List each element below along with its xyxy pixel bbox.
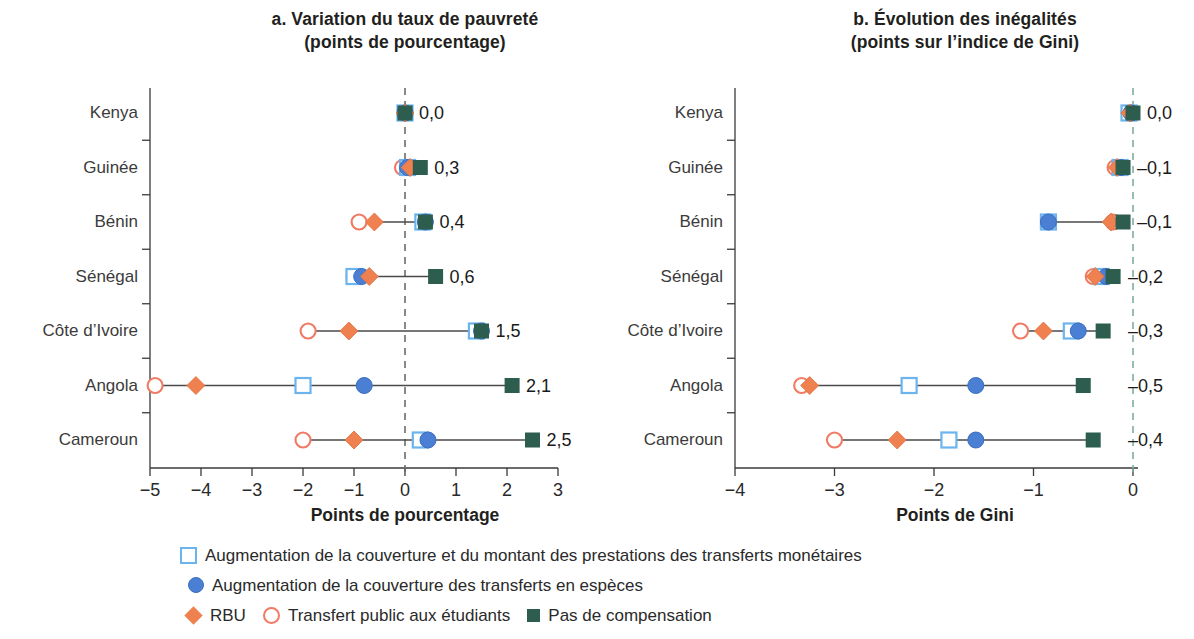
category-label: Sénégal <box>661 267 723 287</box>
marker-green-square <box>1106 269 1121 284</box>
marker-blue-circle <box>968 432 984 448</box>
legend-item-label: RBU <box>210 607 246 624</box>
row-markers <box>1108 159 1131 177</box>
category-label: Angola <box>670 376 723 396</box>
row-value-label: 0,6 <box>450 266 475 287</box>
marker-green-square <box>1116 215 1131 230</box>
marker-green-square <box>525 433 540 448</box>
marker-green-square <box>1076 378 1091 393</box>
marker-green-square <box>418 215 433 230</box>
marker-green-square <box>474 324 489 339</box>
marker-open-circle <box>296 433 311 448</box>
x-tick-label: −3 <box>242 480 263 501</box>
marker-open-square <box>902 378 917 393</box>
legend: Augmentation de la couverture et du mont… <box>0 540 1194 630</box>
x-tick-label: −2 <box>924 480 945 501</box>
marker-orange-diamond <box>1034 322 1052 340</box>
x-tick-label: 0 <box>1128 480 1138 501</box>
row-markers <box>396 104 414 122</box>
row-value-label: –0,5 <box>1128 375 1163 396</box>
legend-item-label: Pas de compensation <box>548 607 712 624</box>
marker-open-circle <box>148 378 163 393</box>
category-label: Kenya <box>90 103 138 123</box>
legend-item[interactable]: RBU <box>186 607 246 624</box>
marker-green-square <box>1086 433 1101 448</box>
row-value-label: –0,1 <box>1137 212 1172 233</box>
marker-orange-diamond <box>888 431 906 449</box>
legend-item[interactable]: Pas de compensation <box>527 607 712 624</box>
row-value-label: –0,2 <box>1128 266 1163 287</box>
row-value-label: 0,3 <box>434 157 459 178</box>
x-tick-label: −5 <box>140 480 161 501</box>
row-value-label: 0,4 <box>439 212 464 233</box>
marker-open-square <box>941 433 956 448</box>
x-tick-label: −1 <box>1023 480 1044 501</box>
marker-open-circle <box>1013 324 1028 339</box>
marker-green-square <box>1096 324 1111 339</box>
legend-item[interactable]: Augmentation de la couverture des transf… <box>188 577 643 594</box>
marker-blue-circle <box>356 378 372 394</box>
legend-orange-diamond-icon <box>184 606 202 624</box>
marker-green-square <box>1116 160 1131 175</box>
x-tick-label: −4 <box>191 480 212 501</box>
marker-orange-diamond <box>187 377 205 395</box>
panel-a-x-axis-label: Points de pourcentage <box>200 505 610 526</box>
marker-open-square <box>296 378 311 393</box>
category-label: Cameroun <box>644 430 723 450</box>
row-value-label: –0,3 <box>1128 321 1163 342</box>
row-value-label: 0,0 <box>1147 103 1172 124</box>
marker-open-circle <box>301 324 316 339</box>
marker-open-circle <box>827 433 842 448</box>
x-tick-label: 3 <box>553 480 563 501</box>
category-label: Bénin <box>95 212 138 232</box>
x-tick-label: −4 <box>725 480 746 501</box>
legend-row: RBUTransfert public aux étudiantsPas de … <box>0 600 1194 630</box>
category-label: Cameroun <box>59 430 138 450</box>
row-markers <box>395 159 428 177</box>
marker-green-square <box>1126 106 1141 121</box>
marker-blue-circle <box>1040 214 1056 230</box>
legend-row: Augmentation de la couverture des transf… <box>0 570 1194 600</box>
row-value-label: 1,5 <box>496 321 521 342</box>
x-tick-label: −1 <box>344 480 365 501</box>
legend-item[interactable]: Transfert public aux étudiants <box>263 607 510 624</box>
row-markers <box>1121 104 1140 122</box>
marker-green-square <box>505 378 520 393</box>
legend-open-circle-icon <box>263 607 280 624</box>
category-label: Sénégal <box>76 267 138 287</box>
panel-b-x-axis-label: Points de Gini <box>760 505 1150 526</box>
figure: a. Variation du taux de pauvreté (points… <box>0 0 1194 639</box>
legend-item-label: Transfert public aux étudiants <box>288 607 510 624</box>
row-value-label: 2,5 <box>547 430 572 451</box>
marker-blue-circle <box>420 432 436 448</box>
row-value-label: 2,1 <box>526 375 551 396</box>
legend-item[interactable]: Augmentation de la couverture et du mont… <box>180 547 862 564</box>
row-value-label: –0,1 <box>1137 157 1172 178</box>
legend-green-square-icon <box>527 609 540 622</box>
marker-blue-circle <box>1070 323 1086 339</box>
marker-orange-diamond <box>345 431 363 449</box>
category-label: Guinée <box>83 158 138 178</box>
row-value-label: –0,4 <box>1128 430 1163 451</box>
category-label: Bénin <box>680 212 723 232</box>
marker-open-circle <box>352 215 367 230</box>
marker-orange-diamond <box>340 322 358 340</box>
x-tick-label: 2 <box>502 480 512 501</box>
category-label: Côte d’Ivoire <box>628 321 723 341</box>
x-tick-label: 1 <box>451 480 461 501</box>
marker-green-square <box>413 160 428 175</box>
category-label: Kenya <box>675 103 723 123</box>
legend-item-label: Augmentation de la couverture des transf… <box>212 577 643 594</box>
legend-open-square-icon <box>180 547 197 564</box>
x-tick-label: −2 <box>293 480 314 501</box>
row-markers <box>1086 268 1121 286</box>
marker-orange-diamond <box>365 213 383 231</box>
legend-row: Augmentation de la couverture et du mont… <box>0 540 1194 570</box>
legend-blue-circle-icon <box>188 577 204 593</box>
marker-green-square <box>428 269 443 284</box>
marker-green-square <box>398 106 413 121</box>
category-label: Guinée <box>668 158 723 178</box>
category-label: Côte d’Ivoire <box>43 321 138 341</box>
category-label: Angola <box>85 376 138 396</box>
x-tick-label: −3 <box>824 480 845 501</box>
